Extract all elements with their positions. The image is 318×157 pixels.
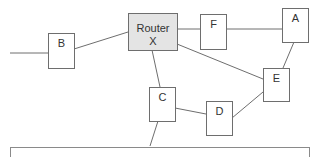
- edge-b-router: [74, 32, 128, 49]
- node-c: C: [149, 87, 176, 122]
- edge-c-external: [150, 121, 158, 146]
- router-x-node: Router X: [128, 13, 178, 51]
- edge-a-e: [283, 42, 294, 68]
- node-e-label: E: [273, 72, 280, 84]
- bottom-frame: [10, 147, 310, 157]
- node-b-label: B: [58, 37, 65, 49]
- node-b: B: [48, 33, 75, 69]
- node-d: D: [206, 101, 233, 136]
- node-f: F: [200, 14, 227, 50]
- node-f-label: F: [210, 18, 217, 30]
- edge-c-d: [175, 108, 206, 114]
- edge-router-c: [152, 50, 160, 87]
- router-label-line2: X: [129, 35, 177, 48]
- edge-d-e: [232, 92, 263, 118]
- node-a-label: A: [292, 12, 299, 24]
- node-a: A: [282, 8, 309, 43]
- router-label-line1: Router: [129, 22, 177, 35]
- node-d-label: D: [216, 105, 224, 117]
- node-c-label: C: [159, 91, 167, 103]
- node-e: E: [263, 68, 290, 102]
